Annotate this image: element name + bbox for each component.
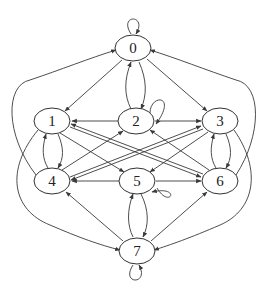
edge-4-2 [62,131,123,170]
node-4: 4 [34,168,70,194]
edge-5-5 [152,188,171,197]
edge-0-0 [128,19,139,34]
node-label: 7 [133,243,141,259]
node-3: 3 [202,108,238,134]
edge-1-4 [58,134,63,168]
edge-1-5 [60,133,124,172]
edge-7-5 [129,194,134,237]
edge-3-7 [154,130,251,250]
edge-0-2 [139,62,145,109]
edge-6-0 [150,50,256,175]
edge-7-7 [130,265,142,280]
node-label: 3 [216,113,224,129]
edge-2-0 [126,62,131,109]
node-label: 4 [48,173,56,189]
node-label: 0 [129,40,137,56]
node-7: 7 [119,238,155,264]
node-label: 5 [133,173,141,189]
node-0: 0 [115,35,151,61]
node-label: 2 [132,113,140,129]
edge-1-7 [17,130,120,250]
edge-6-3 [211,134,216,168]
node-6: 6 [202,168,238,194]
edge-0-1 [65,60,122,111]
directed-graph-diagram: 0 1 2 3 4 5 6 7 [0,0,266,303]
node-1: 1 [34,108,70,134]
edge-7-4 [66,192,123,241]
edge-3-6 [226,134,231,168]
nodes: 0 1 2 3 4 5 6 7 [34,35,238,264]
node-2: 2 [118,108,154,134]
edge-6-2 [150,130,209,170]
edge-4-1 [43,134,48,168]
node-label: 6 [216,173,224,189]
edge-5-7 [141,194,147,237]
node-5: 5 [119,168,155,194]
node-label: 1 [48,113,56,129]
